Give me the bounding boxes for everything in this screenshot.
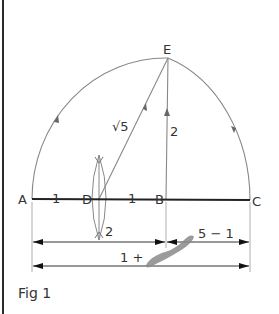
baseline-a-to-c	[32, 199, 250, 200]
figure-caption: Fig 1	[18, 285, 51, 301]
segment-label-db: 1	[128, 191, 136, 206]
arc-e-to-c	[168, 58, 250, 200]
smudge-mark	[146, 236, 194, 268]
golden-ratio-construction-diagram: A D B C E 1 1 √5 2 2 5 − 1 1 + Fig 1	[0, 0, 279, 314]
bisector-arc-left	[92, 155, 99, 240]
line-b-to-e	[166, 58, 168, 199]
dimension-label-ac: 1 +	[120, 250, 143, 265]
segment-label-be: 2	[170, 124, 178, 139]
line-d-to-e	[99, 58, 168, 199]
bisector-label: 2	[105, 224, 113, 239]
point-label-d: D	[82, 192, 92, 207]
point-label-c: C	[252, 194, 261, 209]
segment-label-de: √5	[112, 119, 129, 134]
point-label-e: E	[163, 42, 171, 57]
dimension-label-bc: 5 − 1	[198, 226, 234, 241]
point-label-a: A	[18, 192, 27, 207]
arc-a-to-e	[32, 58, 168, 199]
line-be-arrow-icon	[164, 108, 170, 116]
point-label-b: B	[155, 192, 164, 207]
segment-label-ad: 1	[52, 191, 60, 206]
arc-arrow-left-icon	[54, 115, 59, 123]
